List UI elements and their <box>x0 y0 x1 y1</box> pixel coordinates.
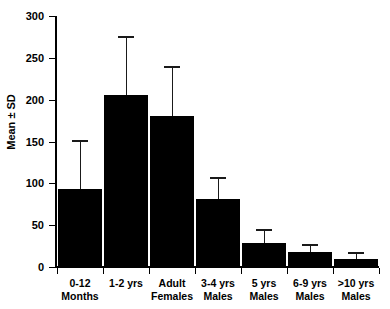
error-bar-cap <box>256 229 272 231</box>
y-tick-label: 50 <box>8 220 44 230</box>
bar <box>242 243 286 267</box>
error-bar-stem <box>126 36 127 95</box>
y-tick-label: 100 <box>8 178 44 188</box>
y-tick-label: 150 <box>8 137 44 147</box>
bar <box>150 116 194 267</box>
bar <box>58 189 102 267</box>
x-tick-mark <box>379 268 380 274</box>
y-tick-label: 300 <box>8 11 44 21</box>
error-bar-stem <box>218 177 219 199</box>
bar-group <box>57 16 103 267</box>
error-bar-cap <box>72 140 88 142</box>
error-bar-cap <box>210 177 226 179</box>
bar-group <box>103 16 149 267</box>
bar-group <box>241 16 287 267</box>
error-bar-stem <box>172 66 173 116</box>
y-tick-mark <box>49 58 56 59</box>
y-tick-mark <box>49 225 56 226</box>
y-tick-label: 200 <box>8 95 44 105</box>
bar-group <box>287 16 333 267</box>
error-bar-cap <box>118 36 134 38</box>
x-tick-mark <box>195 268 196 274</box>
y-tick-mark <box>49 183 56 184</box>
y-tick-mark <box>49 142 56 143</box>
x-tick-mark <box>149 268 150 274</box>
y-tick-mark <box>49 267 56 268</box>
x-tick-label: >10 yrsMales <box>327 277 385 303</box>
bar <box>104 95 148 267</box>
x-tick-mark <box>103 268 104 274</box>
bar <box>196 199 240 267</box>
y-tick-mark <box>49 100 56 101</box>
bar <box>288 252 332 267</box>
bar <box>334 259 378 267</box>
error-bar-cap <box>348 252 364 254</box>
x-tick-mark <box>287 268 288 274</box>
x-tick-mark <box>241 268 242 274</box>
plot-area <box>57 16 379 267</box>
x-tick-mark <box>333 268 334 274</box>
y-tick-mark <box>49 16 56 17</box>
x-tick-label-line: Months <box>51 290 109 303</box>
bar-group <box>333 16 379 267</box>
bar-chart: Mean ± SD 050100150200250300 0-12Months1… <box>0 0 390 309</box>
error-bar-stem <box>264 229 265 243</box>
x-tick-label-line: Males <box>327 290 385 303</box>
y-tick-label: 0 <box>8 262 44 272</box>
error-bar-cap <box>302 244 318 246</box>
y-tick-label: 250 <box>8 53 44 63</box>
x-tick-mark <box>57 268 58 274</box>
bar-group <box>149 16 195 267</box>
bar-group <box>195 16 241 267</box>
error-bar-cap <box>164 66 180 68</box>
x-tick-label-line: >10 yrs <box>327 277 385 290</box>
error-bar-stem <box>80 140 81 189</box>
